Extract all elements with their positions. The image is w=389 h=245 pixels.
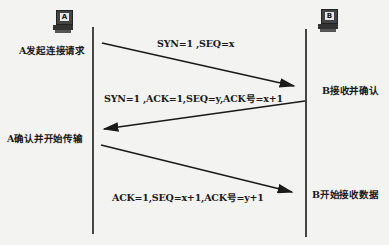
state-a-request: A发起连接请求: [19, 43, 85, 57]
state-a-confirm: A确认并开始传输: [7, 131, 83, 145]
arrow-ack: [101, 145, 292, 192]
host-a-computer-icon: A: [53, 10, 75, 34]
state-b-receive: B开始接收数据: [312, 187, 379, 201]
sequence-diagram: [0, 0, 389, 245]
host-b-computer-icon: B: [318, 9, 340, 33]
host-a-label: A: [60, 13, 69, 21]
message-ack: ACK=1,SEQ=x+1,ACK号=y+1: [112, 190, 264, 204]
message-syn-ack: SYN=1 ,ACK=1,SEQ=y,ACK号=x+1: [104, 91, 283, 105]
message-syn: SYN=1 ,SEQ=x: [157, 38, 234, 49]
arrow-syn: [102, 43, 294, 86]
arrow-syn-ack: [104, 101, 305, 129]
host-b-label: B: [325, 12, 334, 20]
state-b-ack: B接收并确认: [322, 83, 379, 97]
